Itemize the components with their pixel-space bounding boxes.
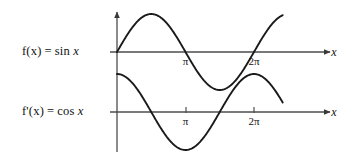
function-label-f-expression: sin xyxy=(55,44,70,58)
bottom-plot-group: π 2π x xyxy=(110,74,337,150)
function-label-f-name: f(x) xyxy=(22,44,42,58)
top-tick-label-2pi: 2π xyxy=(248,55,260,67)
function-label-f-prime-equals: = xyxy=(44,104,57,118)
bottom-tick-label-2pi: 2π xyxy=(248,115,260,127)
top-plot-group: π 2π x xyxy=(110,14,337,90)
function-label-f-prime: f'(x)=cos x xyxy=(22,104,84,119)
function-label-f-prime-expression: cos xyxy=(57,104,74,118)
top-x-axis-label: x xyxy=(330,45,337,59)
bottom-tick-label-pi: π xyxy=(183,115,189,127)
top-tick-label-pi: π xyxy=(183,55,189,67)
trig-derivative-figure: π 2π x π 2π x f(x)=sin x f'(x)=cos x xyxy=(0,0,350,158)
function-label-f-prime-variable: x xyxy=(78,104,84,118)
plot-canvas: π 2π x π 2π x xyxy=(0,0,350,158)
function-label-f-variable: x xyxy=(73,44,79,58)
function-label-f-prime-name: f'(x) xyxy=(22,104,44,118)
bottom-x-axis-label: x xyxy=(330,105,337,119)
function-label-f: f(x)=sin x xyxy=(22,44,79,59)
function-label-f-equals: = xyxy=(42,44,55,58)
